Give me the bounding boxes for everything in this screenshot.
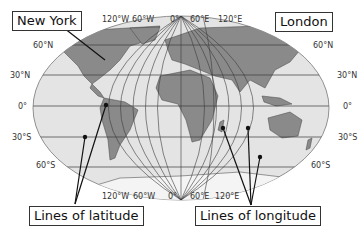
top-label-0: 0° — [170, 16, 179, 24]
top-label-120e: 120°E — [218, 16, 242, 24]
left-label-30n: 30°N — [10, 72, 30, 80]
top-label-60e: 60°E — [190, 16, 209, 24]
callout-london: London — [275, 12, 333, 32]
bottom-label-120e: 120°E — [215, 193, 239, 201]
bottom-label-120w: 120°W — [102, 193, 129, 201]
right-label-30n: 30°N — [337, 72, 357, 80]
bottom-label-60e: 60°E — [190, 193, 209, 201]
right-label-60s: 60°S — [311, 162, 330, 170]
world-map — [0, 0, 362, 237]
left-label-30s: 30°S — [12, 134, 31, 142]
left-label-60s: 60°S — [36, 162, 55, 170]
left-label-60n: 60°N — [33, 42, 53, 50]
top-label-120w: 120°W — [102, 16, 129, 24]
top-label-60w: 60°W — [132, 16, 154, 24]
bottom-label-60w: 60°W — [133, 193, 155, 201]
bottom-label-0: 0° — [168, 193, 177, 201]
callout-lines-of-longitude: Lines of longitude — [195, 206, 321, 226]
right-label-0: 0° — [343, 103, 352, 111]
right-label-60n: 60°N — [313, 42, 333, 50]
right-label-30s: 30°S — [338, 134, 357, 142]
left-label-0: 0° — [18, 103, 27, 111]
callout-new-york: New York — [12, 11, 82, 31]
callout-lines-of-latitude: Lines of latitude — [29, 206, 144, 226]
